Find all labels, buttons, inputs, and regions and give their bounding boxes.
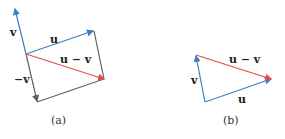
panel-a: v u u − v −v (a) [9,9,104,127]
caption-a: (a) [51,114,66,127]
label-v: v [9,26,17,39]
vector-subtraction-diagram: v u u − v −v (a) u − v v u (b) [0,0,285,139]
vector-u-arrow [26,31,93,54]
parallelogram-bottom-edge [37,79,104,102]
caption-b: (b) [223,114,239,127]
label-v: v [190,74,198,87]
label-u-minus-v: u − v [60,53,92,66]
label-neg-v: −v [14,73,30,86]
label-u: u [238,93,246,106]
vector-v-arrow [15,9,26,54]
label-u: u [50,33,58,46]
label-u-minus-v: u − v [229,53,261,66]
panel-b: u − v v u (b) [190,53,271,127]
parallelogram-right-edge [94,31,104,79]
